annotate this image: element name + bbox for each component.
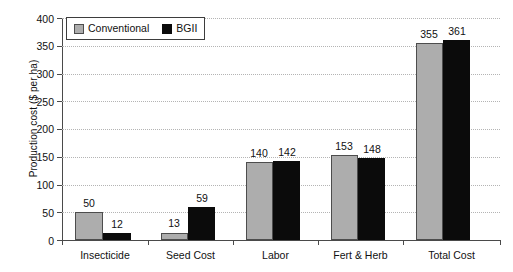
bar-bgii-insecticide[interactable] (103, 233, 131, 240)
x-tick-mark-1 (148, 240, 149, 245)
y-tick-label-150: 150 (12, 152, 54, 162)
y-tick-label-400: 400 (12, 14, 54, 24)
legend-label-conventional: Conventional (88, 23, 149, 34)
y-tick-label-200: 200 (12, 124, 54, 134)
legend-label-bgii: BGII (176, 23, 197, 34)
x-tick-mark-2 (233, 240, 234, 245)
data-label-bgii-labor: 142 (266, 147, 308, 158)
data-label-conventional-insecticide: 50 (68, 198, 110, 209)
data-label-conventional-seed-cost: 13 (153, 218, 195, 229)
chart-legend: Conventional BGII (66, 17, 205, 40)
y-tick-label-350: 350 (12, 41, 54, 51)
x-axis-line (62, 240, 501, 241)
bar-conventional-labor[interactable] (246, 162, 273, 240)
data-label-bgii-insecticide: 12 (96, 219, 138, 230)
legend-swatch-conventional-icon (74, 24, 84, 34)
plot-area: 50 12 13 59 140 142 153 148 355 361 (62, 18, 500, 240)
bar-conventional-fert-herb[interactable] (331, 155, 358, 240)
data-label-bgii-seed-cost: 59 (181, 193, 223, 204)
bar-conventional-total-cost[interactable] (416, 43, 443, 240)
bar-conventional-seed-cost[interactable] (161, 233, 188, 240)
bar-bgii-total-cost[interactable] (443, 40, 470, 240)
x-category-label-fert-herb: Fert & Herb (318, 249, 403, 261)
x-category-label-seed-cost: Seed Cost (148, 249, 233, 261)
bar-bgii-fert-herb[interactable] (358, 158, 385, 240)
x-tick-mark-end (500, 240, 501, 245)
x-category-label-labor: Labor (233, 249, 318, 261)
legend-item-bgii[interactable]: BGII (162, 23, 197, 34)
data-label-bgii-fert-herb: 148 (351, 144, 393, 155)
y-tick-label-50: 50 (12, 208, 54, 218)
y-tick-label-300: 300 (12, 69, 54, 79)
y-tick-label-100: 100 (12, 180, 54, 190)
data-label-bgii-total-cost: 361 (436, 26, 478, 37)
bar-bgii-labor[interactable] (273, 161, 300, 240)
y-tick-label-0: 0 (12, 236, 54, 246)
x-tick-mark-4 (403, 240, 404, 245)
y-tick-label-250: 250 (12, 97, 54, 107)
x-category-label-insecticide: Insecticide (62, 249, 148, 261)
legend-swatch-bgii-icon (162, 24, 172, 34)
x-tick-mark-3 (318, 240, 319, 245)
bar-chart: Production cost ($ per ha) 400 350 300 2… (0, 0, 513, 272)
x-tick-mark-start (62, 240, 63, 245)
legend-item-conventional[interactable]: Conventional (74, 23, 149, 34)
x-category-label-total-cost: Total Cost (403, 249, 500, 261)
